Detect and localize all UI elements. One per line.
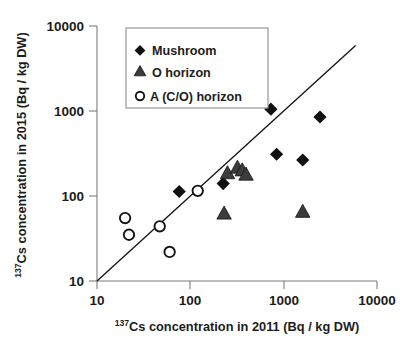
x-tick-label-1000: 1000 xyxy=(269,293,299,308)
y-axis-title-superscript: 137 xyxy=(13,263,23,278)
open-circle-icon xyxy=(136,92,144,100)
y-axis-title-text: Cs concentration in 2015 (Bq / kg DW) xyxy=(14,32,29,263)
x-axis-title-text: Cs concentration in 2011 (Bq / kg DW) xyxy=(129,319,359,334)
scatter-chart-figure: 10000 1000 100 10 10 100 1000 10000 Mush… xyxy=(0,0,411,346)
y-tick-label-1000: 1000 xyxy=(54,104,84,119)
data-point-circle xyxy=(193,186,203,196)
data-point-circle xyxy=(124,230,134,240)
data-point-circle xyxy=(120,213,130,223)
x-tick-label-10: 10 xyxy=(89,293,104,308)
data-point-circle xyxy=(164,247,174,257)
svg-text:137Cs concentration in 2015 (B: 137Cs concentration in 2015 (Bq / kg DW) xyxy=(13,32,29,277)
x-axis-title-superscript: 137 xyxy=(115,318,130,328)
scatter-plot-canvas: 10000 1000 100 10 10 100 1000 10000 Mush… xyxy=(0,0,411,346)
legend-entry-a-horizon: A (C/O) horizon xyxy=(136,90,242,104)
y-tick-label-10: 10 xyxy=(69,274,84,289)
y-axis-title: 137Cs concentration in 2015 (Bq / kg DW) xyxy=(13,32,29,277)
y-tick-label-10000: 10000 xyxy=(46,19,84,34)
legend-label-a-horizon: A (C/O) horizon xyxy=(150,90,242,104)
data-point-circle xyxy=(155,221,165,231)
legend: Mushroom O horizon A (C/O) horizon xyxy=(126,28,268,108)
legend-label-mushroom: Mushroom xyxy=(152,44,216,58)
y-tick-label-100: 100 xyxy=(61,189,84,204)
x-axis-title: 137Cs concentration in 2011 (Bq / kg DW) xyxy=(115,318,360,334)
legend-label-o-horizon: O horizon xyxy=(152,66,211,80)
x-tick-label-10000: 10000 xyxy=(358,293,396,308)
x-tick-label-100: 100 xyxy=(179,293,202,308)
svg-text:137Cs concentration in 2011 (B: 137Cs concentration in 2011 (Bq / kg DW) xyxy=(115,318,360,334)
